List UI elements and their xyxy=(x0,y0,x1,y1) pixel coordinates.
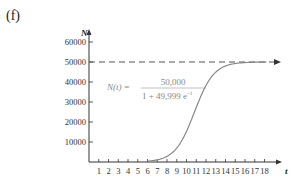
x-tick-label: 7 xyxy=(155,166,159,176)
x-tick-label: 15 xyxy=(231,166,240,176)
formula-annotation: N(t) = 50,000 1 + 49,999 e−t xyxy=(106,77,206,101)
x-tick-label: 12 xyxy=(202,166,211,176)
x-tick-label: 17 xyxy=(251,166,260,176)
x-tick-label: 9 xyxy=(175,166,179,176)
asymptote-arrow-icon xyxy=(274,59,281,65)
formula-numerator: 50,000 xyxy=(161,77,186,87)
formula-lhs: N(t) = xyxy=(106,82,130,92)
axis-ticks: 1234567891011121314151617181000020000300… xyxy=(65,37,269,176)
x-tick-label: 5 xyxy=(136,166,140,176)
x-tick-label: 3 xyxy=(116,166,120,176)
y-tick-label: 20000 xyxy=(65,117,86,127)
y-tick-label: 30000 xyxy=(65,97,86,107)
x-tick-label: 11 xyxy=(192,166,200,176)
x-axis-label: t xyxy=(285,166,288,176)
x-tick-label: 16 xyxy=(241,166,250,176)
y-tick-label: 60000 xyxy=(65,37,86,47)
x-tick-label: 4 xyxy=(126,166,131,176)
x-tick-label: 8 xyxy=(165,166,169,176)
x-axis-arrow-icon xyxy=(276,160,282,165)
x-tick-label: 13 xyxy=(212,166,221,176)
y-tick-label: 10000 xyxy=(65,137,86,147)
y-tick-label: 50000 xyxy=(65,57,86,67)
x-tick-label: 2 xyxy=(106,166,110,176)
x-tick-label: 10 xyxy=(182,166,191,176)
x-tick-label: 1 xyxy=(97,166,101,176)
axes: Nt xyxy=(80,28,288,176)
x-tick-label: 6 xyxy=(145,166,149,176)
formula-denominator: 1 + 49,999 e−t xyxy=(142,90,192,101)
y-tick-label: 40000 xyxy=(65,77,86,87)
logistic-growth-chart: Nt 1234567891011121314151617181000020000… xyxy=(0,0,294,186)
x-tick-label: 18 xyxy=(260,166,269,176)
x-tick-label: 14 xyxy=(221,166,230,176)
